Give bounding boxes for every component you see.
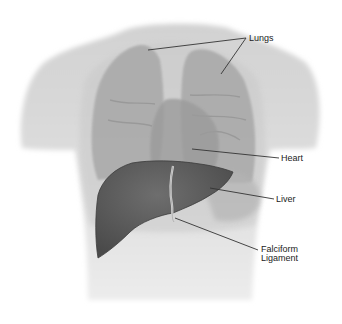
label-heart: Heart bbox=[281, 153, 303, 163]
label-lungs: Lungs bbox=[249, 33, 274, 43]
label-ligament: Ligament bbox=[261, 253, 298, 263]
label-liver: Liver bbox=[276, 194, 296, 204]
